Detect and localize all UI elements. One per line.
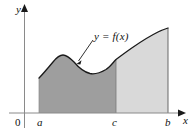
- y-axis-arrow-icon: [21, 4, 28, 12]
- tick-label-c: c: [112, 117, 117, 128]
- tick-label-a: a: [37, 117, 43, 128]
- figure-container: y x 0 a c b y = f(x): [0, 0, 194, 137]
- y-axis-label: y: [16, 4, 21, 15]
- tick-label-b: b: [165, 117, 171, 128]
- x-axis-label: x: [183, 115, 188, 126]
- curve-label-leader-line: [79, 40, 94, 61]
- origin-label: 0: [15, 117, 21, 128]
- curve-equation-label: y = f(x): [94, 31, 129, 42]
